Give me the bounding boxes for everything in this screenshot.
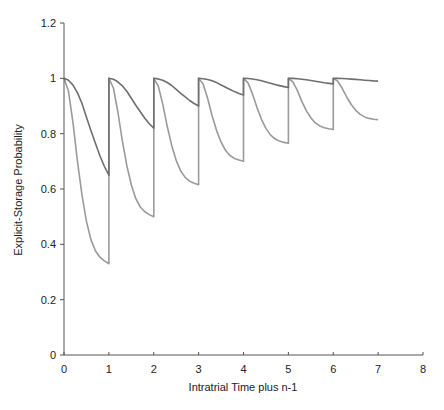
x-tick-label: 8: [420, 363, 426, 375]
y-tick-label: 0.4: [41, 238, 56, 250]
x-tick-label: 7: [375, 363, 381, 375]
y-tick-label: 1: [50, 72, 56, 84]
chart-svg: 00.20.40.60.811.2012345678 Intratrial Ti…: [0, 0, 444, 410]
axes: 00.20.40.60.811.2012345678: [41, 17, 426, 375]
series-line-dark: [64, 78, 378, 175]
x-tick-label: 0: [61, 363, 67, 375]
x-tick-label: 1: [106, 363, 112, 375]
y-tick-label: 0.8: [41, 128, 56, 140]
y-tick-label: 0.2: [41, 294, 56, 306]
series-layer: [64, 78, 378, 263]
series-line-light: [64, 78, 378, 263]
y-tick-label: 1.2: [41, 17, 56, 29]
y-axis-title: Explicit-Storage Probability: [12, 124, 24, 256]
y-tick-label: 0.6: [41, 183, 56, 195]
x-tick-label: 2: [151, 363, 157, 375]
x-tick-label: 6: [330, 363, 336, 375]
x-tick-label: 5: [285, 363, 291, 375]
x-tick-label: 3: [196, 363, 202, 375]
y-tick-label: 0: [50, 349, 56, 361]
x-axis-title: Intratrial Time plus n-1: [189, 381, 298, 393]
x-tick-label: 4: [240, 363, 246, 375]
